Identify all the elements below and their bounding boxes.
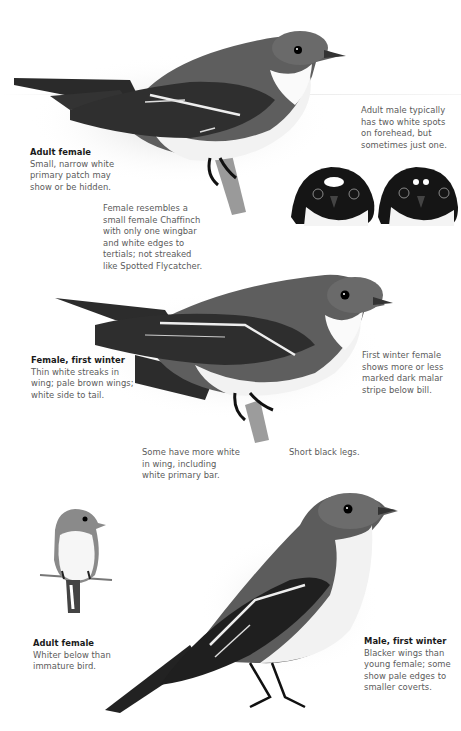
caption-line: immature bird.	[33, 661, 111, 673]
caption-line: primary patch may	[30, 170, 114, 182]
caption-title: Female, first winter	[31, 355, 134, 367]
caption-line: Whiter below than	[33, 650, 111, 662]
caption-line: with only one wingbar	[103, 226, 202, 238]
caption-adult-male-forehead: Adult male typically has two white spots…	[361, 105, 447, 151]
caption-first-winter-malar: First winter female shows more or less m…	[362, 350, 443, 396]
caption-adult-female-bottom: Adult female Whiter below than immature …	[33, 638, 111, 673]
caption-line: smaller coverts.	[364, 682, 451, 694]
caption-line: stripe below bill.	[362, 385, 443, 397]
caption-line: Blacker wings than	[364, 648, 451, 660]
caption-line: young female; some	[364, 659, 451, 671]
adult-male-heads-illustration	[286, 162, 461, 232]
caption-title: Male, first winter	[364, 636, 451, 648]
caption-line: Adult male typically	[361, 105, 447, 117]
caption-line: in wing, including	[142, 459, 240, 471]
caption-short-legs: Short black legs.	[289, 447, 360, 459]
caption-line: First winter female	[362, 350, 443, 362]
caption-line: on forehead, but	[361, 128, 447, 140]
caption-title: Adult female	[30, 147, 114, 159]
caption-line: shows more or less	[362, 362, 443, 374]
caption-line: has two white spots	[361, 117, 447, 129]
caption-adult-female-top: Adult female Small, narrow white primary…	[30, 147, 114, 193]
caption-male-first-winter: Male, first winter Blacker wings than yo…	[364, 636, 451, 694]
caption-line: Female resembles a	[103, 203, 202, 215]
caption-line: wing; pale brown wings;	[31, 378, 134, 390]
caption-female-chaffinch: Female resembles a small female Chaffinc…	[103, 203, 202, 272]
caption-line: sometimes just one.	[361, 140, 447, 152]
caption-line: white side to tail.	[31, 390, 134, 402]
caption-line: white primary bar.	[142, 470, 240, 482]
caption-line: tertials; not streaked	[103, 249, 202, 261]
caption-line: and white edges to	[103, 238, 202, 250]
caption-line: Some have more white	[142, 447, 240, 459]
caption-female-first-winter: Female, first winter Thin white streaks …	[31, 355, 134, 401]
caption-line: like Spotted Flycatcher.	[103, 261, 202, 273]
caption-line: small female Chaffinch	[103, 215, 202, 227]
caption-title: Adult female	[33, 638, 111, 650]
male-first-winter-bird-illustration	[100, 485, 400, 715]
caption-line: Thin white streaks in	[31, 367, 134, 379]
caption-line: marked dark malar	[362, 373, 443, 385]
caption-line: show or be hidden.	[30, 182, 114, 194]
caption-line: Small, narrow white	[30, 159, 114, 171]
caption-line: Short black legs.	[289, 447, 360, 459]
caption-line: show pale edges to	[364, 671, 451, 683]
caption-more-white-wing: Some have more white in wing, including …	[142, 447, 240, 482]
